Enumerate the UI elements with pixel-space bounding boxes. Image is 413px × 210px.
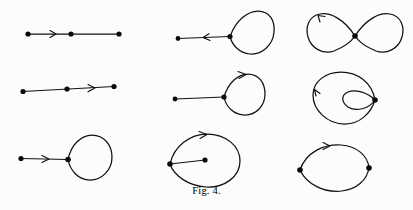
panel-r2c3 — [313, 72, 378, 124]
figure-container: Fig. 4. — [0, 0, 413, 210]
edge-path — [21, 159, 68, 160]
arc-path-upper — [300, 145, 369, 170]
loop-path — [224, 74, 265, 115]
graph-node — [111, 84, 116, 89]
graph-node — [68, 31, 73, 36]
graph-node — [20, 89, 25, 94]
arrow-head-icon — [315, 90, 321, 97]
chord-path — [170, 160, 205, 164]
arrow-head-icon — [318, 16, 325, 23]
graph-node — [352, 33, 358, 39]
loop-path-outer — [313, 72, 375, 124]
graph-node — [65, 157, 71, 163]
graph-node — [221, 94, 226, 99]
loop-path-left — [307, 14, 355, 52]
loop-path-right — [355, 14, 403, 52]
panel-r2c2 — [173, 72, 265, 116]
figure-drawing-canvas — [0, 0, 413, 210]
panel-r3c3 — [297, 143, 372, 192]
graph-node — [64, 86, 69, 91]
graph-node — [372, 97, 378, 103]
loop-path — [68, 135, 112, 180]
graph-node — [202, 157, 207, 162]
graph-node — [366, 165, 372, 171]
loop-path — [230, 11, 274, 54]
graph-node — [18, 156, 23, 161]
loop-path-inner — [343, 91, 375, 110]
panel-r2c1 — [20, 84, 116, 94]
panel-r3c2 — [167, 132, 240, 188]
graph-node — [116, 31, 121, 36]
graph-node — [167, 161, 173, 167]
graph-node — [176, 36, 181, 41]
graph-node — [173, 97, 178, 102]
panel-r1c3 — [307, 14, 403, 52]
graph-node — [25, 31, 30, 36]
graph-node — [297, 167, 303, 173]
edge-path — [175, 97, 224, 99]
panel-r3c1 — [18, 135, 112, 180]
graph-node — [227, 34, 232, 39]
panel-r1c2 — [176, 11, 275, 54]
figure-caption: Fig. 4. — [0, 185, 413, 196]
panel-r1c1 — [25, 31, 121, 38]
